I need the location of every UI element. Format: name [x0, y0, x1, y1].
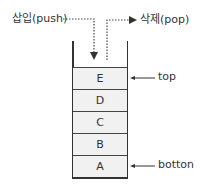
stack-cell-c: C — [73, 111, 127, 133]
stack-bottom — [72, 177, 128, 179]
stack-cell-b: B — [73, 133, 127, 155]
pop-label: 삭제(pop) — [140, 13, 189, 27]
pop-arrow-head — [129, 16, 137, 24]
stack-cell-e: E — [73, 67, 127, 89]
stack-cell-d: D — [73, 89, 127, 111]
bottom-pointer-head — [130, 164, 135, 168]
push-label: 삽입(push) — [12, 12, 67, 26]
top-pointer-label: top — [158, 70, 176, 84]
bottom-pointer-label: botton — [158, 158, 194, 172]
top-pointer-head — [130, 76, 135, 80]
push-arrow — [63, 19, 94, 52]
push-arrow-head — [90, 52, 98, 60]
stack-cell-a: A — [73, 155, 127, 177]
